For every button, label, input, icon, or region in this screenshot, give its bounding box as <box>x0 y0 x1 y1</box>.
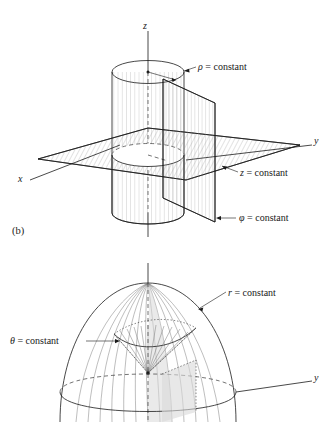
y-axis-label: y <box>313 135 319 146</box>
rho-leader-arrow <box>184 69 190 73</box>
cylindrical-coordinates-panel: z <box>12 20 319 237</box>
base-ellipse-front <box>60 392 236 412</box>
r-constant-label: r = constant <box>228 287 276 298</box>
theta-constant-label: θ = constant <box>10 335 59 346</box>
x-axis-label: x <box>17 173 23 184</box>
coordinate-surfaces-figure: z <box>0 0 334 422</box>
r-leader-line <box>200 292 226 308</box>
figure-root: z <box>0 0 334 422</box>
sphere-y-axis <box>236 381 312 392</box>
r-constant-annotation: r = constant <box>198 287 276 311</box>
z-constant-label: z = constant <box>239 167 288 178</box>
panel-label-b: (b) <box>12 225 25 237</box>
z-constant-annotation: z = constant <box>222 166 288 178</box>
phi-leader-arrow <box>216 216 221 220</box>
rho-constant-label: ρ = constant <box>197 61 247 72</box>
z-axis-label: z <box>142 20 147 31</box>
phi-constant-annotation: φ = constant <box>216 212 289 223</box>
sphere-y-axis-label: y <box>313 372 319 383</box>
rho-constant-annotation: ρ = constant <box>184 61 247 73</box>
spherical-coordinates-panel: y r = constant θ = constant <box>10 263 319 422</box>
phi-constant-label: φ = constant <box>239 212 289 223</box>
